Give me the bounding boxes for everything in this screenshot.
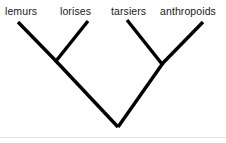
anthropoids-branch: [162, 22, 203, 64]
tree-branches: [0, 0, 226, 143]
taxon-label-anthropoids: anthropoids: [160, 5, 216, 17]
lorises-branch: [56, 21, 88, 61]
bottom-divider: [0, 137, 226, 138]
haplorhine-stem: [118, 63, 163, 127]
lemurs-branch: [18, 22, 56, 61]
taxon-label-lorises: lorises: [60, 5, 91, 17]
taxon-label-tarsiers: tarsiers: [111, 5, 146, 17]
tarsiers-branch: [127, 20, 162, 64]
strepsirrhine-stem: [55, 60, 118, 127]
taxon-label-lemurs: lemurs: [5, 5, 37, 17]
cladogram-figure: lemurs lorises tarsiers anthropoids: [0, 0, 226, 143]
